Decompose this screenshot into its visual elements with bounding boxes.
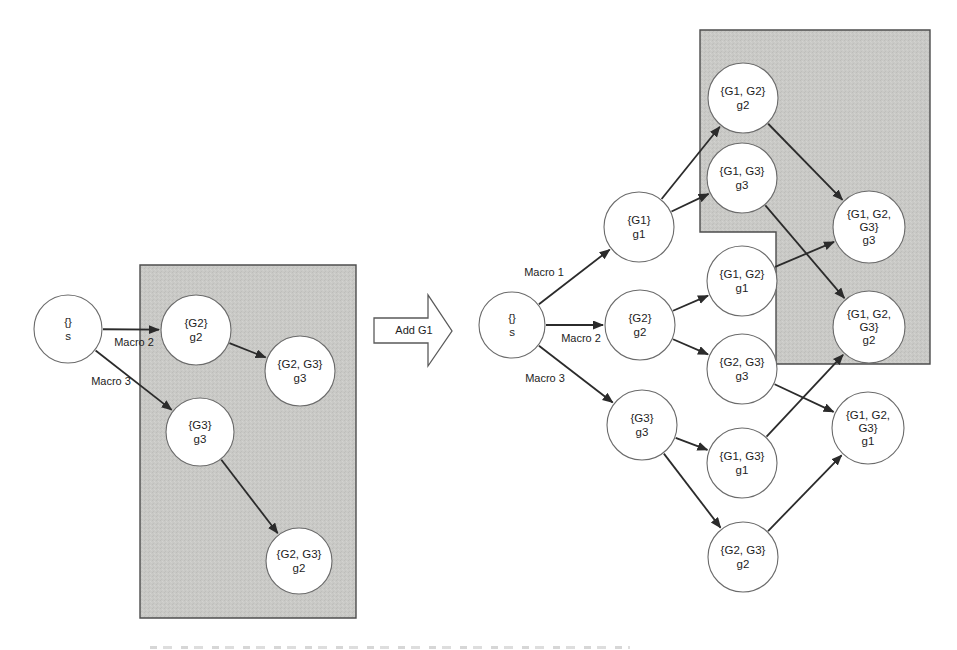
node-label: {G2} [184, 317, 207, 329]
node-label: {G1, G2, [847, 208, 891, 220]
graph-node: {G1, G2}g2 [708, 63, 778, 133]
node-circle [266, 528, 332, 594]
graph-edge [676, 438, 708, 450]
node-circle [707, 246, 777, 316]
graph-edge [775, 384, 834, 412]
graph-edge [673, 339, 708, 354]
transition-arrow: Add G1 [374, 295, 452, 366]
graph-node: {G1, G2}g1 [707, 246, 777, 316]
graph-node: {}s [34, 295, 102, 363]
graph-edge [767, 355, 843, 437]
node-label: g2 [737, 558, 750, 570]
node-label: g1 [736, 464, 749, 476]
node-label: g2 [863, 334, 876, 346]
graph-node: {}s [479, 292, 545, 358]
node-label: g3 [194, 433, 207, 445]
graph-edge [673, 296, 708, 311]
node-circle [34, 295, 102, 363]
node-label: {G1, G3} [720, 450, 765, 462]
node-label: g3 [863, 234, 876, 246]
node-label: {} [508, 312, 516, 324]
edge-label: Macro 2 [114, 336, 154, 348]
graph-node: {G1, G3}g1 [707, 428, 777, 498]
graph-node: {G2}g2 [605, 290, 675, 360]
node-label: g2 [634, 326, 647, 338]
edge-label: Macro 2 [561, 332, 601, 344]
graph-node: {G2, G3}g2 [708, 522, 778, 592]
node-label: {G1} [627, 214, 650, 226]
node-circle [708, 522, 778, 592]
node-label: {G2} [628, 312, 651, 324]
node-label: {G3} [188, 419, 211, 431]
right-graph: {}s{G1}g1{G2}g2{G3}g3{G1, G2}g2{G1, G3}g… [479, 30, 930, 592]
node-label: g2 [737, 99, 750, 111]
graph-node: {G1, G2,G3}g1 [832, 392, 904, 464]
node-label: s [65, 330, 71, 342]
node-label: G3} [858, 422, 877, 434]
graph-node: {G3}g3 [166, 398, 234, 466]
node-label: g1 [633, 228, 646, 240]
edge-label: Macro 3 [91, 375, 131, 387]
node-circle [161, 295, 231, 365]
node-circle [707, 143, 777, 213]
graph-node: {G2, G3}g3 [707, 334, 777, 404]
node-label: g3 [294, 372, 307, 384]
graph-node: {G1, G2,G3}g2 [833, 291, 905, 363]
node-label: g3 [736, 370, 749, 382]
node-label: s [509, 326, 515, 338]
node-label: {G1, G2, [847, 308, 891, 320]
node-label: {G1, G3} [720, 165, 765, 177]
node-label: g1 [862, 435, 875, 447]
node-circle [605, 290, 675, 360]
node-label: g2 [190, 331, 203, 343]
node-label: {G2, G3} [278, 358, 323, 370]
node-circle [604, 192, 674, 262]
left-graph: {}s{G2}g2{G2, G3}g3{G3}g3{G2, G3}g2Macro… [34, 265, 356, 618]
node-circle [607, 390, 677, 460]
node-circle [708, 63, 778, 133]
caption-remnant [150, 646, 630, 649]
graph-node: {G1}g1 [604, 192, 674, 262]
graph-node: {G2, G3}g3 [265, 336, 335, 406]
figure-canvas: {}s{G2}g2{G2, G3}g3{G3}g3{G2, G3}g2Macro… [0, 0, 957, 650]
node-label: {} [64, 316, 72, 328]
node-circle [707, 428, 777, 498]
node-label: G3} [859, 221, 878, 233]
graph-node: {G2}g2 [161, 295, 231, 365]
node-label: {G2, G3} [721, 544, 766, 556]
node-label: g3 [736, 179, 749, 191]
node-label: {G3} [630, 412, 653, 424]
graph-node: {G2, G3}g2 [266, 528, 332, 594]
node-label: g1 [736, 282, 749, 294]
node-label: {G1, G2, [846, 409, 890, 421]
node-label: {G1, G2} [721, 85, 766, 97]
node-label: {G2, G3} [277, 548, 322, 560]
edge-label: Macro 1 [524, 266, 564, 278]
node-circle [707, 334, 777, 404]
graph-node: {G1, G2,G3}g3 [833, 191, 905, 263]
node-label: G3} [859, 321, 878, 333]
node-circle [265, 336, 335, 406]
edge-label: Macro 3 [525, 372, 565, 384]
node-circle [166, 398, 234, 466]
node-circle [479, 292, 545, 358]
transition-arrow-label: Add G1 [395, 324, 432, 336]
graph-edge [768, 455, 842, 531]
node-label: g3 [636, 426, 649, 438]
graph-node: {G3}g3 [607, 390, 677, 460]
node-label: g2 [293, 562, 306, 574]
node-label: {G1, G2} [720, 268, 765, 280]
figure-stage: {}s{G2}g2{G2, G3}g3{G3}g3{G2, G3}g2Macro… [0, 0, 957, 650]
graph-node: {G1, G3}g3 [707, 143, 777, 213]
node-label: {G2, G3} [720, 356, 765, 368]
